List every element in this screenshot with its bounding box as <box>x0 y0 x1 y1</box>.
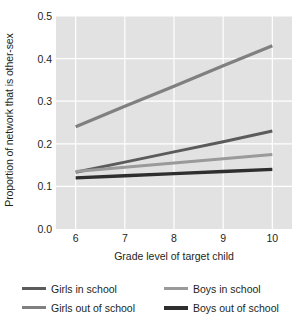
x-axis-tick-label: 9 <box>203 232 243 244</box>
plot-area <box>56 16 292 229</box>
chart-figure: Proportion of network that is other-sex … <box>0 0 305 322</box>
x-axis-tick-labels: 678910 <box>56 232 292 248</box>
x-axis-tick-label: 10 <box>252 232 292 244</box>
legend-item[interactable]: Girls out of school <box>22 302 164 314</box>
y-axis-tick-label: 0.0 <box>22 223 52 235</box>
legend-item[interactable]: Girls in school <box>22 283 164 295</box>
x-axis-tick-label: 8 <box>154 232 194 244</box>
y-axis-title-text: Proportion of network that is other-sex <box>3 33 15 207</box>
x-axis-title: Grade level of target child <box>56 250 292 262</box>
y-axis-tick-label: 0.1 <box>22 180 52 192</box>
y-axis-tick-label: 0.5 <box>22 10 52 22</box>
line-swatch-icon <box>22 306 46 309</box>
legend-item-label: Boys in school <box>193 283 261 295</box>
y-axis-tick-labels: 0.00.10.20.30.40.5 <box>18 0 52 322</box>
vertical-gridlines <box>76 16 273 229</box>
legend-item[interactable]: Boys out of school <box>164 302 294 314</box>
plot-svg <box>56 16 292 229</box>
chart-legend: Girls in schoolBoys in schoolGirls out o… <box>22 279 294 319</box>
line-swatch-icon <box>164 287 188 290</box>
y-axis-tick-label: 0.4 <box>22 53 52 65</box>
y-axis-tick-label: 0.2 <box>22 138 52 150</box>
line-swatch-icon <box>164 306 188 310</box>
legend-item-label: Girls out of school <box>51 302 135 314</box>
line-swatch-icon <box>22 287 46 290</box>
x-axis-tick-label: 7 <box>105 232 145 244</box>
y-axis-title: Proportion of network that is other-sex <box>0 0 18 240</box>
legend-item-label: Boys out of school <box>193 302 279 314</box>
x-axis-tick-label: 6 <box>56 232 96 244</box>
y-axis-tick-label: 0.3 <box>22 95 52 107</box>
legend-item[interactable]: Boys in school <box>164 283 294 295</box>
legend-item-label: Girls in school <box>51 283 117 295</box>
